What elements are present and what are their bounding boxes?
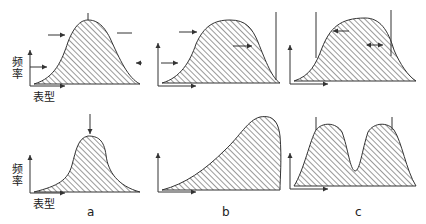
distribution-curve <box>294 18 416 81</box>
x-axis-label-top: 表型 <box>33 92 55 103</box>
distribution-curve <box>162 117 281 190</box>
panel-a-before <box>30 13 142 86</box>
distribution-curve <box>162 20 280 83</box>
panel-b-before <box>158 12 280 86</box>
panel-label-a: a <box>87 206 94 218</box>
y-axis-label-bottom: 频率 <box>11 163 22 187</box>
panel-c-after <box>290 117 416 189</box>
distribution-curve <box>294 124 416 186</box>
y-axis-label-top: 频率 <box>11 56 22 80</box>
panel-label-b: b <box>222 206 230 218</box>
panel-label-c: c <box>355 206 362 218</box>
panel-a-after <box>30 114 140 193</box>
panel-c-before <box>290 10 416 84</box>
panel-b-after <box>158 117 281 192</box>
selection-diagram <box>0 0 426 224</box>
distribution-curve <box>34 136 140 192</box>
distribution-curve <box>34 20 140 84</box>
x-axis-label-bottom: 表型 <box>33 199 55 210</box>
